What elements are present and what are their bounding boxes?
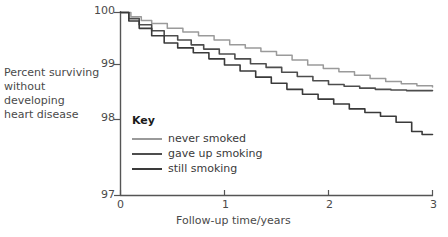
y-tick-label-98: 98 (101, 111, 115, 124)
y-tick-label-99: 99 (101, 57, 115, 70)
x-tick-label-1: 1 (222, 198, 229, 211)
legend-item-gave-up-smoking: gave up smoking (132, 146, 263, 161)
x-axis-title: Follow-up time/years (176, 214, 291, 227)
y-tick-label-100: 100 (94, 4, 115, 17)
y-tick-label-97: 97 (101, 188, 115, 201)
x-tick-label-2: 2 (326, 198, 333, 211)
legend-swatch-still-smoking (132, 168, 162, 170)
legend-item-never-smoked: never smoked (132, 131, 263, 146)
legend-title: Key (132, 114, 263, 127)
legend-label-still-smoking: still smoking (168, 162, 237, 175)
legend-swatch-never-smoked (132, 138, 162, 140)
x-tick-label-0: 0 (117, 198, 124, 211)
legend-item-still-smoking: still smoking (132, 161, 263, 176)
x-tick-label-3: 3 (430, 198, 437, 211)
chart-figure: Percent surviving without developing hea… (0, 0, 448, 237)
legend-swatch-gave-up-smoking (132, 153, 162, 155)
legend-label-never-smoked: never smoked (168, 132, 246, 145)
series-line-never-smoked (121, 13, 433, 87)
y-axis-title: Percent surviving without developing hea… (4, 66, 104, 122)
legend-label-gave-up-smoking: gave up smoking (168, 147, 263, 160)
legend: Key never smoked gave up smoking still s… (132, 114, 263, 176)
